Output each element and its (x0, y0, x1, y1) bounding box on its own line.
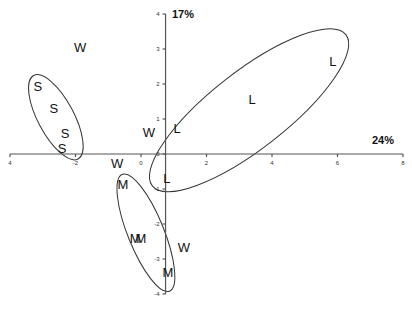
point-W: W (178, 240, 191, 255)
x-tick-label: 4 (8, 160, 12, 166)
y-tick-label: -1 (154, 186, 160, 192)
x-tick-label: 4 (270, 160, 274, 166)
point-S: S (61, 126, 70, 141)
x-tick-label: 6 (336, 160, 340, 166)
point-L: L (173, 121, 180, 136)
point-S: S (50, 101, 59, 116)
ellipse-S (18, 67, 94, 167)
point-W: W (74, 40, 87, 55)
point-S: S (58, 141, 67, 156)
x-tick-label: -2 (73, 160, 79, 166)
x-axis-label: 24% (372, 134, 394, 146)
point-M: M (118, 177, 129, 192)
point-W: W (143, 125, 156, 140)
y-tick-label: -2 (154, 221, 160, 227)
y-tick-label: 1 (156, 116, 160, 122)
y-tick-label: 4 (156, 11, 160, 17)
group-ellipses (18, 4, 370, 298)
point-M: M (162, 265, 173, 280)
axes: 4-20246843210-1-2-3-4 (8, 11, 405, 297)
x-tick-label: 0 (139, 160, 143, 166)
y-axis-label: 17% (172, 8, 194, 20)
point-S: S (34, 79, 43, 94)
point-L: L (329, 54, 336, 69)
data-points: SSSSWWWWLLLLMMMM (34, 40, 337, 280)
point-L: L (248, 92, 255, 107)
scatter-chart: 4-20246843210-1-2-3-4 SSSSWWWWLLLLMMMM 2… (0, 0, 412, 309)
point-W: W (111, 156, 124, 171)
point-M: M (136, 231, 147, 246)
x-tick-label: 8 (401, 160, 405, 166)
y-tick-label: 3 (156, 46, 160, 52)
y-tick-label: -3 (154, 256, 160, 262)
point-L: L (163, 171, 170, 186)
y-tick-label: 2 (156, 81, 160, 87)
x-tick-label: 2 (205, 160, 209, 166)
y-tick-label: -4 (154, 291, 160, 297)
